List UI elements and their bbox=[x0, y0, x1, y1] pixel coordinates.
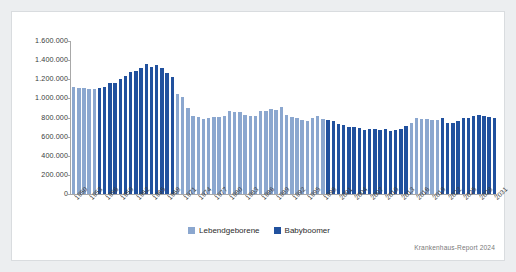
x-axis-tick-mark bbox=[432, 194, 433, 196]
bar-babyboomer bbox=[384, 129, 387, 194]
x-axis-tick-mark bbox=[354, 194, 355, 196]
bar-lebendgeborene bbox=[223, 116, 226, 194]
y-axis-tick-label: 400.000 bbox=[12, 152, 74, 159]
bar-lebendgeborene bbox=[207, 118, 210, 194]
bar-lebendgeborene bbox=[269, 109, 272, 194]
x-axis-tick-mark bbox=[339, 194, 340, 196]
bar-babyboomer bbox=[98, 88, 101, 194]
bar-babyboomer bbox=[441, 118, 444, 194]
bar-lebendgeborene bbox=[430, 120, 433, 194]
bar-lebendgeborene bbox=[181, 97, 184, 194]
y-axis-tick-label: 600.000 bbox=[12, 133, 74, 140]
bar-babyboomer bbox=[129, 72, 132, 194]
bar-lebendgeborene bbox=[300, 120, 303, 194]
legend-item-babyboomer[interactable]: Babyboomer bbox=[274, 226, 330, 235]
bar-lebendgeborene bbox=[316, 116, 319, 194]
x-axis-tick-mark bbox=[401, 194, 402, 196]
bar-babyboomer bbox=[456, 121, 459, 194]
bar-babyboomer bbox=[462, 118, 465, 194]
bar-lebendgeborene bbox=[197, 117, 200, 194]
bar-babyboomer bbox=[113, 83, 116, 194]
x-axis-tick-mark bbox=[198, 194, 199, 196]
plot-area bbox=[71, 41, 497, 194]
x-axis-tick-mark bbox=[89, 194, 90, 196]
bar-lebendgeborene bbox=[72, 87, 75, 194]
bar-babyboomer bbox=[389, 131, 392, 194]
x-axis-tick-mark bbox=[448, 194, 449, 196]
x-axis-tick-mark bbox=[370, 194, 371, 196]
x-axis-tick-mark bbox=[307, 194, 308, 196]
bar-babyboomer bbox=[451, 123, 454, 194]
bar-lebendgeborene bbox=[238, 112, 241, 194]
bar-babyboomer bbox=[493, 118, 496, 195]
bar-lebendgeborene bbox=[191, 116, 194, 194]
bar-lebendgeborene bbox=[186, 108, 189, 194]
bar-babyboomer bbox=[368, 129, 371, 195]
bar-lebendgeborene bbox=[176, 94, 179, 194]
bar-lebendgeborene bbox=[280, 107, 283, 194]
y-axis-tick-label: 1.600.000 bbox=[12, 37, 74, 44]
legend-label-lebendgeborene: Lebendgeborene bbox=[199, 226, 260, 235]
bar-babyboomer bbox=[482, 116, 485, 194]
bar-babyboomer bbox=[358, 128, 361, 194]
bar-babyboomer bbox=[477, 115, 480, 194]
bar-lebendgeborene bbox=[259, 111, 262, 194]
bar-lebendgeborene bbox=[202, 119, 205, 194]
bar-lebendgeborene bbox=[77, 88, 80, 194]
bar-babyboomer bbox=[165, 73, 168, 194]
x-axis-tick-mark bbox=[167, 194, 168, 196]
bar-babyboomer bbox=[103, 87, 106, 194]
bar-babyboomer bbox=[347, 127, 350, 195]
bar-lebendgeborene bbox=[321, 119, 324, 194]
bar-lebendgeborene bbox=[436, 120, 439, 194]
bar-lebendgeborene bbox=[82, 88, 85, 194]
bar-babyboomer bbox=[332, 121, 335, 194]
bar-babyboomer bbox=[404, 126, 407, 194]
x-axis-tick-mark bbox=[416, 194, 417, 196]
bar-lebendgeborene bbox=[306, 121, 309, 194]
x-axis-tick-mark bbox=[261, 194, 262, 196]
legend-swatch-lebendgeborene bbox=[188, 227, 195, 234]
y-axis-tick-label: 0 bbox=[12, 190, 74, 197]
bar-lebendgeborene bbox=[410, 123, 413, 194]
bar-lebendgeborene bbox=[274, 110, 277, 194]
bar-babyboomer bbox=[171, 77, 174, 194]
x-axis-tick-mark bbox=[229, 194, 230, 196]
bar-lebendgeborene bbox=[254, 116, 257, 194]
legend-item-lebendgeborene[interactable]: Lebendgeborene bbox=[188, 226, 260, 235]
chart-card: 1.600.0001.400.0001.200.0001.000.000800.… bbox=[11, 11, 505, 261]
bar-babyboomer bbox=[145, 64, 148, 194]
legend-label-babyboomer: Babyboomer bbox=[285, 226, 330, 235]
x-axis-tick-mark bbox=[152, 194, 153, 196]
x-axis-tick-mark bbox=[214, 194, 215, 196]
bar-lebendgeborene bbox=[415, 118, 418, 194]
bar-lebendgeborene bbox=[243, 115, 246, 194]
bar-babyboomer bbox=[160, 68, 163, 194]
x-axis-tick-mark bbox=[74, 194, 75, 196]
bar-lebendgeborene bbox=[425, 119, 428, 194]
bar-babyboomer bbox=[399, 129, 402, 194]
source-note: Krankenhaus-Report 2024 bbox=[414, 244, 495, 251]
bar-babyboomer bbox=[337, 124, 340, 194]
bar-lebendgeborene bbox=[217, 117, 220, 194]
x-axis-tick-mark bbox=[463, 194, 464, 196]
bar-babyboomer bbox=[155, 65, 158, 194]
bar-lebendgeborene bbox=[311, 118, 314, 194]
bar-babyboomer bbox=[119, 79, 122, 194]
bar-babyboomer bbox=[139, 68, 142, 194]
bar-babyboomer bbox=[352, 127, 355, 195]
bar-lebendgeborene bbox=[285, 115, 288, 194]
x-axis-tick-mark bbox=[323, 194, 324, 196]
x-axis-tick-mark bbox=[245, 194, 246, 196]
bar-babyboomer bbox=[108, 83, 111, 194]
bar-babyboomer bbox=[467, 118, 470, 195]
bar-lebendgeborene bbox=[249, 116, 252, 194]
legend-swatch-babyboomer bbox=[274, 227, 281, 234]
bar-lebendgeborene bbox=[212, 117, 215, 194]
bar-lebendgeborene bbox=[93, 89, 96, 194]
bar-lebendgeborene bbox=[87, 89, 90, 194]
bar-babyboomer bbox=[342, 125, 345, 194]
y-axis-tick-label: 1.000.000 bbox=[12, 94, 74, 101]
bar-lebendgeborene bbox=[420, 119, 423, 194]
bar-babyboomer bbox=[150, 67, 153, 194]
